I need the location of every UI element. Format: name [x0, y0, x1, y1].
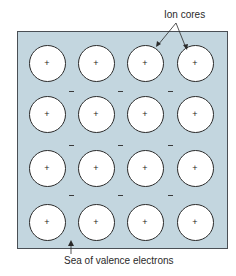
plus-icon: + [142, 218, 147, 227]
electron-minus-icon [118, 91, 123, 92]
ion-core: + [177, 150, 214, 187]
ion-core: + [127, 204, 164, 241]
ion-core: + [29, 204, 66, 241]
ion-core: + [177, 96, 214, 133]
plus-icon: + [142, 110, 147, 119]
electron-minus-icon [69, 145, 74, 146]
ion-core: + [127, 45, 164, 82]
plus-icon: + [93, 59, 98, 68]
ion-core: + [29, 45, 66, 82]
ion-core: + [78, 96, 115, 133]
plus-icon: + [93, 218, 98, 227]
ion-core: + [177, 204, 214, 241]
plus-icon: + [44, 164, 49, 173]
plus-icon: + [192, 218, 197, 227]
ion-core: + [127, 96, 164, 133]
electron-minus-icon [168, 91, 173, 92]
plus-icon: + [44, 218, 49, 227]
electron-minus-icon [118, 195, 123, 196]
ion-core: + [78, 150, 115, 187]
plus-icon: + [192, 110, 197, 119]
plus-icon: + [192, 164, 197, 173]
ion-cores-label: Ion cores [164, 9, 205, 20]
electron-minus-icon [168, 195, 173, 196]
plus-icon: + [192, 59, 197, 68]
plus-icon: + [93, 110, 98, 119]
plus-icon: + [142, 164, 147, 173]
electron-minus-icon [69, 91, 74, 92]
ion-core: + [78, 45, 115, 82]
sea-of-valence-electrons-label: Sea of valence electrons [64, 255, 174, 266]
plus-icon: + [44, 110, 49, 119]
ion-core: + [177, 45, 214, 82]
plus-icon: + [44, 59, 49, 68]
ion-core: + [29, 96, 66, 133]
plus-icon: + [93, 164, 98, 173]
ion-core: + [29, 150, 66, 187]
ion-core: + [78, 204, 115, 241]
electron-minus-icon [118, 145, 123, 146]
plus-icon: + [142, 59, 147, 68]
ion-core: + [127, 150, 164, 187]
electron-minus-icon [69, 195, 74, 196]
electron-minus-icon [168, 145, 173, 146]
